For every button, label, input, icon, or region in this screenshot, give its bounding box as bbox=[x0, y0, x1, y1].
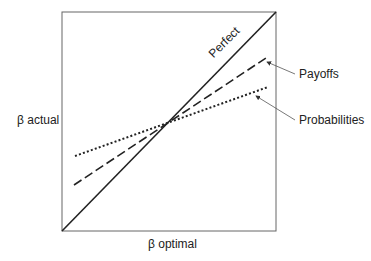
probabilities-line bbox=[75, 87, 268, 156]
perfect-label: Perfect bbox=[206, 23, 243, 60]
probabilities-label: Probabilities bbox=[299, 113, 364, 127]
y-axis-label: β actual bbox=[17, 113, 59, 127]
chart-canvas: Perfect Payoffs Probabilities β actual β… bbox=[0, 0, 371, 261]
perfect-line bbox=[62, 12, 276, 231]
payoffs-leader bbox=[267, 62, 295, 74]
x-axis-label: β optimal bbox=[148, 237, 197, 251]
payoffs-label: Payoffs bbox=[299, 67, 339, 81]
